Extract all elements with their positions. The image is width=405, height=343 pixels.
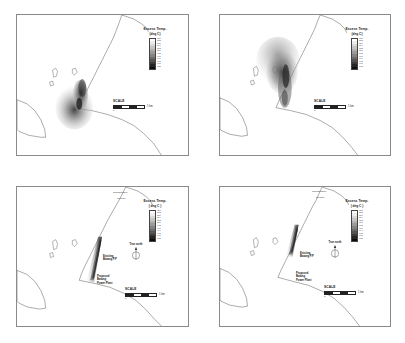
colorbar-wrap: 3.0 2.8 2.6 2.4 2.2 2.0 1.8 1.6 1.4 1.2 … <box>132 210 178 243</box>
colorbar-tick: 0.5 <box>157 66 160 69</box>
map-frame: Ujungnegoro Celowo Existing Batang P.P P… <box>16 186 189 327</box>
scale-bar-group: SCALE 1 km 0 <box>324 285 364 298</box>
place-label-lower: Celowo <box>117 197 125 200</box>
colorbar-tick: 0.5 <box>359 66 362 69</box>
scale-label: SCALE <box>113 99 153 103</box>
scale-bar-ends: 0 <box>113 109 143 112</box>
legend-excess-temp: Excess Temp. ( deg C ) <box>132 199 178 242</box>
compass-rose-group: True north <box>129 243 143 261</box>
legend-units: ( deg C ) <box>132 204 178 209</box>
scale-bar-group: SCALE 1 km 0 <box>125 287 165 300</box>
colorbar <box>149 38 156 71</box>
panel-top-right: Excess Temp. (deg C) <box>203 0 405 172</box>
scale-label: SCALE <box>125 287 165 291</box>
scale-bar-unit: 1 km <box>348 105 354 108</box>
annotation-existing-line2: Batang P.P <box>300 255 314 258</box>
colorbar-wrap: 3.0 2.8 2.6 2.4 2.2 2.0 1.8 1.6 1.4 1.2 … <box>334 38 380 71</box>
legend-units: ( deg C ) <box>334 204 380 209</box>
scale-bar-unit: 1 km <box>159 293 165 296</box>
place-label-upper: Ujungnegoro <box>312 190 326 193</box>
scale-label: SCALE <box>324 285 364 289</box>
scale-bar: 1 km <box>314 105 354 109</box>
scale-label: SCALE <box>314 99 354 103</box>
colorbar-ticks: 3.0 2.8 2.6 2.4 2.2 2.0 1.8 1.6 1.4 1.2 … <box>359 210 362 241</box>
compass-rose-group: True north <box>328 241 342 259</box>
compass-title: True north <box>129 243 143 246</box>
colorbar-ticks: 3.0 2.8 2.6 2.4 2.2 2.0 1.8 1.6 1.4 1.2 … <box>157 210 160 241</box>
colorbar-wrap: 3.0 2.8 2.6 2.4 2.2 2.0 1.8 1.6 1.4 1.2 … <box>334 210 380 243</box>
scale-bar: 1 km <box>113 105 153 109</box>
colorbar <box>351 210 358 243</box>
scale-bar-start: 0 <box>113 109 114 112</box>
colorbar-tick: 0.5 <box>157 238 160 241</box>
scale-bar-segments <box>314 105 346 109</box>
annotation-existing-plant: Existing Batang P.P <box>300 252 314 259</box>
scale-bar-segments <box>113 105 145 109</box>
panel-top-left: Excess Temp. (deg C) <box>0 0 203 172</box>
place-label-upper: Ujungnegoro <box>113 191 127 194</box>
scale-bar-unit: 1 km <box>147 105 153 108</box>
annotation-proposed-plant: Proposed Batang Power Plant <box>97 275 112 285</box>
scale-bar-segments <box>125 293 157 297</box>
colorbar-tick: 0.5 <box>359 238 362 241</box>
annotation-existing-line2: Batang P.P <box>103 258 117 261</box>
annotation-existing-plant: Existing Batang P.P <box>103 255 117 262</box>
scale-bar-start: 0 <box>324 295 325 298</box>
scale-bar: 1 km <box>324 291 364 295</box>
scale-bar-segments <box>324 291 356 295</box>
colorbar-ticks: 3.0 2.8 2.6 2.4 2.2 2.0 1.8 1.6 1.4 1.2 … <box>359 38 362 69</box>
panel-grid: Excess Temp. (deg C) <box>0 0 405 343</box>
scale-bar-start: 0 <box>314 109 315 112</box>
colorbar <box>149 210 156 243</box>
scale-bar-ends: 0 <box>324 295 354 298</box>
annotation-proposed-line3: Power Plant <box>296 279 311 282</box>
north-arrow-icon <box>328 245 342 259</box>
map-frame: Ujungnegoro Celowo Existing Batang P.P P… <box>219 186 391 327</box>
legend-excess-temp: Excess Temp. (deg C) <box>132 27 178 70</box>
scale-bar-ends: 0 <box>125 297 155 300</box>
scale-bar-group: SCALE 1 km 0 <box>113 99 153 112</box>
colorbar-ticks: 3.0 2.8 2.6 2.4 2.2 2.0 1.8 1.6 1.4 1.2 … <box>157 38 160 69</box>
place-label-lower: Celowo <box>316 196 324 199</box>
north-arrow-icon <box>129 247 143 261</box>
legend-units: (deg C) <box>132 32 178 37</box>
annotation-proposed-line3: Power Plant <box>97 282 112 285</box>
scale-bar-group: SCALE 1 km 0 <box>314 99 354 112</box>
colorbar-wrap: 3.0 2.8 2.6 2.4 2.2 2.0 1.8 1.6 1.4 1.2 … <box>132 38 178 71</box>
legend-excess-temp: Excess Temp. ( deg C ) <box>334 199 380 242</box>
legend-units: (deg C) <box>334 32 380 37</box>
map-frame: Excess Temp. (deg C) <box>219 14 391 156</box>
panel-bottom-left: Ujungnegoro Celowo Existing Batang P.P P… <box>0 172 203 343</box>
colorbar <box>351 38 358 71</box>
annotation-proposed-plant: Proposed Batang Power Plant <box>296 272 311 282</box>
legend-excess-temp: Excess Temp. (deg C) <box>334 27 380 70</box>
panel-bottom-right: Ujungnegoro Celowo Existing Batang P.P P… <box>203 172 405 343</box>
map-frame: Excess Temp. (deg C) <box>16 14 189 156</box>
scale-bar-unit: 1 km <box>358 291 364 294</box>
scale-bar-ends: 0 <box>314 109 344 112</box>
scale-bar: 1 km <box>125 293 165 297</box>
scale-bar-start: 0 <box>125 297 126 300</box>
